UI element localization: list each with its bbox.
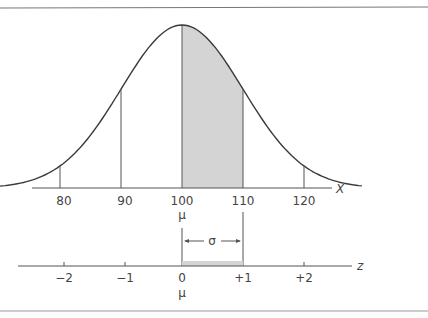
x-tick-80: 80: [56, 194, 71, 208]
z-tick-0: 0: [178, 271, 186, 285]
x-tick-90: 90: [117, 194, 132, 208]
x-tick-120: 120: [293, 194, 316, 208]
z-tick-minus1: −1: [116, 271, 134, 285]
z-tick-plus2: +2: [295, 271, 313, 285]
z-axis-ticks: −2 −1 0 +1 +2: [55, 271, 313, 285]
x-mean-label: μ: [178, 208, 186, 222]
z-shaded-strip: [182, 261, 243, 266]
top-border: [0, 7, 428, 8]
shaded-area: [182, 25, 243, 188]
x-tick-110: 110: [232, 194, 255, 208]
x-axis-label: X: [335, 182, 345, 196]
normal-distribution-diagram: X 80 90 100 110 120 μ σ z −2 −1 0 +1 +2 …: [0, 0, 428, 318]
z-axis-label: z: [356, 259, 364, 273]
z-mean-label: μ: [178, 286, 186, 300]
x-axis-ticks: 80 90 100 110 120: [56, 194, 315, 208]
z-tick-plus1: +1: [234, 271, 252, 285]
sigma-label: σ: [208, 234, 216, 248]
ordinate-lines: [60, 25, 304, 188]
arrow-right-icon: [236, 239, 241, 243]
z-tick-minus2: −2: [55, 271, 73, 285]
arrow-left-icon: [184, 239, 189, 243]
x-tick-100: 100: [171, 194, 194, 208]
normal-curve: [0, 25, 362, 187]
